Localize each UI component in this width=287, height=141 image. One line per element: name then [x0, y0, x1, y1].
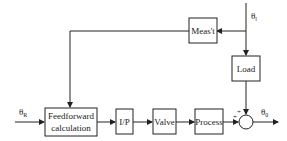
measurement-block: Meas't [189, 18, 217, 43]
reference-signal-label: θR [19, 107, 27, 118]
feedforward-block: Feedforward calculation [45, 108, 97, 136]
valve-label: Valve [154, 117, 175, 127]
svg-text:θl: θl [251, 11, 257, 22]
block-diagram: Meas't Load Feedforward calculation I/P … [0, 0, 287, 141]
sum-sign-top: + [237, 108, 241, 116]
feedforward-label-line1: Feedforward [48, 111, 94, 121]
load-label: Load [237, 64, 256, 74]
measurement-label: Meas't [191, 26, 215, 36]
process-block: Process [195, 109, 223, 134]
ip-converter-block: I/P [116, 109, 133, 134]
measurement-feed-line [70, 31, 189, 107]
feedforward-label-line2: calculation [51, 123, 91, 133]
sum-sign-left: + [233, 113, 237, 121]
load-signal-label: θl [251, 11, 257, 22]
load-block: Load [232, 56, 260, 81]
ip-label: I/P [119, 117, 130, 127]
valve-block: Valve [153, 109, 176, 134]
output-signal-label: θ0 [261, 107, 268, 118]
svg-text:θ0: θ0 [261, 107, 268, 118]
process-label: Process [195, 117, 223, 127]
summing-junction: + + [233, 108, 253, 129]
svg-text:θR: θR [19, 107, 27, 118]
